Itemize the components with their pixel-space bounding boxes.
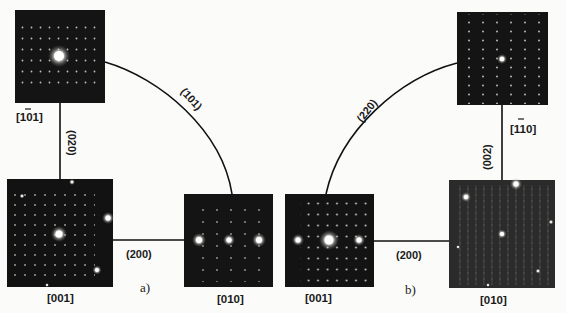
zone-axis-label-b-010: [010]	[480, 294, 507, 306]
diffraction-panel-a-101	[15, 10, 105, 103]
zone-axis-label-a-010: [010]	[217, 293, 244, 305]
subfigure-label-a: a)	[140, 280, 150, 295]
plane-label-b-200: (200)	[396, 249, 422, 261]
diffraction-panel-b-110	[457, 12, 548, 105]
zone-axis-label-a-101: [101]	[16, 111, 43, 123]
connector-b-220-arc	[326, 63, 457, 194]
zone-axis-label-a-001: [001]	[47, 292, 74, 304]
zone-axis-label-b-110: [110]	[510, 123, 536, 135]
plane-label-a-200: (200)	[126, 248, 152, 260]
diffraction-panel-a-010	[184, 194, 273, 287]
subfigure-label-b: b)	[405, 282, 416, 297]
plane-label-b-002: (002)	[481, 144, 493, 170]
diffraction-panel-a-001	[7, 179, 114, 287]
plane-label-a-101: (101)	[179, 85, 205, 112]
connector-a-101-arc	[105, 62, 232, 194]
diffraction-panel-b-001	[285, 194, 374, 287]
plane-label-a-020: (020)	[66, 130, 78, 156]
zone-axis-label-b-001: [001]	[305, 292, 332, 304]
diffraction-panel-b-010	[449, 178, 555, 288]
diffraction-figure: [101] [001] [010] (020) (200) (101) a)	[0, 0, 566, 313]
